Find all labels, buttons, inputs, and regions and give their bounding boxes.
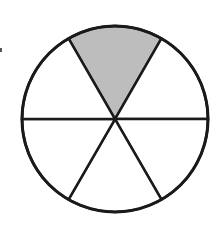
fraction-circle-diagram (0, 0, 220, 228)
stray-mark (0, 48, 2, 52)
